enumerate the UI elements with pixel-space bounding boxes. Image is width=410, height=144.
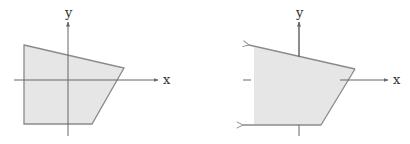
diagram-canvas: x y x y xyxy=(0,0,410,144)
right-region xyxy=(254,47,355,125)
right-y-label: y xyxy=(295,5,304,20)
right-figure: x y xyxy=(243,5,401,136)
left-figure: x y xyxy=(14,5,171,136)
left-x-label: x xyxy=(163,72,171,87)
left-y-label: y xyxy=(64,5,73,20)
right-x-label: x xyxy=(393,72,401,87)
left-region xyxy=(24,45,124,124)
